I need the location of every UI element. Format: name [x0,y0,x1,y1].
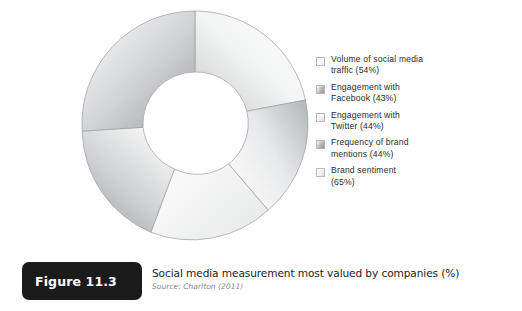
legend-label-volume-traffic: Volume of social media traffic (54%) [331,54,423,77]
legend-item-volume-traffic[interactable]: Volume of social media traffic (54%) [316,54,486,77]
figure-number-badge: Figure 11.3 [22,262,130,300]
legend-item-twitter-engagement[interactable]: Engagement with Twitter (44%) [316,110,486,133]
legend-swatch-brand-sentiment [316,168,325,177]
chart-legend: Volume of social media traffic (54%) Eng… [316,54,486,193]
figure-number-label: Figure 11.3 [35,274,117,289]
slice-brand-sentiment [82,11,195,131]
doughnut-chart [60,2,330,247]
legend-item-brand-mentions[interactable]: Frequency of brand mentions (44%) [316,137,486,160]
doughnut-chart-svg [60,2,330,247]
legend-label-twitter-engagement: Engagement with Twitter (44%) [331,110,400,133]
legend-item-brand-sentiment[interactable]: Brand sentiment (65%) [316,165,486,188]
legend-swatch-twitter-engagement [316,113,325,122]
slice-volume-traffic [195,11,305,111]
caption-source: Source: Charlton (2011) [152,282,497,292]
legend-swatch-volume-traffic [316,57,325,66]
legend-swatch-facebook-engagement [316,85,325,94]
figure-caption: Figure 11.3 Social media measurement mos… [22,262,500,300]
caption-title: Social media measurement most valued by … [152,266,497,280]
legend-label-brand-sentiment: Brand sentiment (65%) [331,165,396,188]
legend-label-brand-mentions: Frequency of brand mentions (44%) [331,137,409,160]
caption-text-block: Social media measurement most valued by … [152,266,497,292]
legend-item-facebook-engagement[interactable]: Engagement with Facebook (43%) [316,82,486,105]
legend-swatch-brand-mentions [316,140,325,149]
figure-badge-notch [130,262,142,300]
legend-label-facebook-engagement: Engagement with Facebook (43%) [331,82,400,105]
